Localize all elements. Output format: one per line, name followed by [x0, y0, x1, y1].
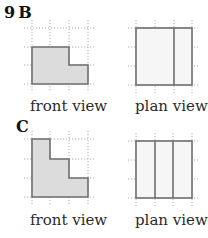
- part-c-front-view-label: front view: [30, 211, 107, 229]
- part-b-plan-view-label: plan view: [135, 97, 208, 115]
- part-c-plan-view-shape: [136, 141, 192, 198]
- part-c-front-view-shape: [32, 139, 88, 197]
- part-b-front-view-label: front view: [30, 97, 107, 115]
- part-b-plan-view-shape: [136, 28, 192, 85]
- part-b-front-view-shape: [32, 47, 88, 84]
- part-c-plan-view-label: plan view: [135, 211, 208, 229]
- views-diagram: [0, 0, 208, 238]
